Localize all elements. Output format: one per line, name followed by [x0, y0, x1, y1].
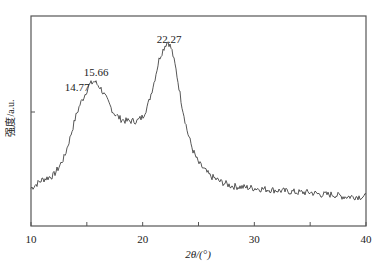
x-axis-ticks	[31, 222, 366, 226]
xrd-curve	[31, 42, 366, 200]
peak-label-15-66: 15.66	[84, 66, 109, 78]
x-tick-label: 30	[249, 233, 261, 245]
x-axis-label: 2θ/(°)	[185, 248, 211, 261]
x-tick-label: 40	[361, 233, 373, 245]
x-axis-tick-labels: 10 20 30 40	[26, 233, 373, 245]
y-axis-label: 强度/a.u.	[4, 99, 16, 136]
x-tick-label: 10	[26, 233, 38, 245]
x-tick-label: 20	[137, 233, 149, 245]
peak-label-14-77: 14.77	[65, 81, 90, 93]
peak-label-22-27: 22.27	[157, 33, 182, 45]
xrd-chart: 10 20 30 40 2θ/(°) 强度/a.u. 14.77 15.66 2…	[0, 0, 382, 269]
plot-frame	[31, 16, 366, 226]
